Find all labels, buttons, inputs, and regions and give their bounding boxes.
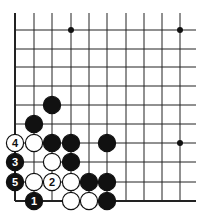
- stones: 43521: [6, 96, 115, 209]
- black-stone: [98, 173, 115, 190]
- move-number-label: 1: [31, 195, 37, 207]
- black-stone-icon: [98, 192, 115, 209]
- move-number-label: 5: [12, 176, 18, 188]
- move-number-label: 4: [12, 137, 19, 149]
- white-stone-icon: [62, 173, 79, 190]
- white-stone-icon: [25, 173, 42, 190]
- white-stone-icon: [62, 192, 79, 209]
- white-stone: 2: [43, 173, 60, 190]
- white-stone-icon: [43, 153, 60, 170]
- black-stone: [62, 134, 79, 151]
- black-stone: 1: [25, 192, 42, 209]
- grid-lines: [15, 13, 196, 201]
- black-stone-icon: [98, 134, 115, 151]
- black-stone: [43, 134, 60, 151]
- white-stone: 4: [6, 134, 23, 151]
- black-stone: 3: [6, 153, 23, 170]
- white-stone: [25, 134, 42, 151]
- go-board: 43521: [0, 0, 204, 221]
- black-stone-icon: [43, 134, 60, 151]
- black-stone-icon: [62, 134, 79, 151]
- white-stone: [43, 153, 60, 170]
- move-number-label: 2: [49, 176, 55, 188]
- white-stone: [80, 192, 97, 209]
- black-stone-icon: [80, 173, 97, 190]
- move-number-label: 3: [12, 156, 18, 168]
- black-stone: [43, 96, 60, 113]
- black-stone: [80, 173, 97, 190]
- black-stone-icon: [98, 173, 115, 190]
- white-stone-icon: [80, 192, 97, 209]
- black-stone-icon: [62, 153, 79, 170]
- black-stone-icon: [43, 96, 60, 113]
- white-stone: [62, 192, 79, 209]
- white-stone: [25, 173, 42, 190]
- white-stone: [62, 173, 79, 190]
- white-stone-icon: [25, 134, 42, 151]
- black-stone: [98, 134, 115, 151]
- star-point-icon: [177, 140, 183, 146]
- black-stone: [98, 192, 115, 209]
- black-stone: 5: [6, 173, 23, 190]
- black-stone: [25, 115, 42, 132]
- black-stone: [62, 153, 79, 170]
- black-stone-icon: [25, 115, 42, 132]
- star-point-icon: [68, 27, 74, 33]
- star-point-icon: [177, 27, 183, 33]
